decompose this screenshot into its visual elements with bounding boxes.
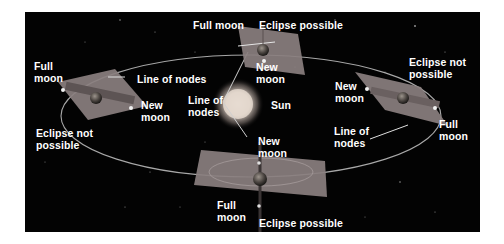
label-right-eclipse-not-possible: Eclipse not possible	[409, 56, 466, 80]
earth-icon	[257, 44, 269, 56]
label-right-new-moon: New moon	[335, 80, 364, 104]
earth-icon	[397, 92, 409, 104]
moon-icon	[433, 106, 437, 110]
left-orbital-plane	[58, 69, 147, 120]
diagram-panel: Full moon Eclipse possible New moon Full…	[25, 12, 480, 232]
diagram-graphic	[25, 12, 480, 232]
label-left-line-of-nodes: Line of nodes	[137, 73, 207, 85]
moon-icon	[61, 88, 65, 92]
label-bottom-eclipse-possible: Eclipse possible	[259, 217, 343, 229]
earth-icon	[90, 92, 102, 104]
label-bottom-full-moon: Full moon	[217, 199, 246, 223]
label-right-full-moon: Full moon	[439, 118, 468, 142]
label-top-eclipse-possible: Eclipse possible	[259, 19, 343, 31]
right-line-of-nodes-pointer	[370, 125, 408, 139]
label-bottom-new-moon: New moon	[258, 135, 287, 159]
moon-icon	[257, 204, 261, 208]
label-center-line-of-nodes: Line of nodes	[188, 94, 223, 118]
moon-icon	[129, 106, 133, 110]
earth-icon	[253, 172, 267, 186]
moon-icon	[365, 87, 369, 91]
moon-icon	[257, 161, 261, 165]
label-right-line-of-nodes: Line of nodes	[334, 125, 369, 149]
label-left-eclipse-not-possible: Eclipse not possible	[36, 127, 93, 151]
label-left-new-moon: New moon	[141, 99, 170, 123]
label-left-full-moon: Full moon	[34, 60, 63, 84]
label-top-new-moon: New moon	[256, 61, 285, 85]
label-top-full-moon: Full moon	[193, 19, 244, 31]
label-sun: Sun	[271, 99, 291, 111]
